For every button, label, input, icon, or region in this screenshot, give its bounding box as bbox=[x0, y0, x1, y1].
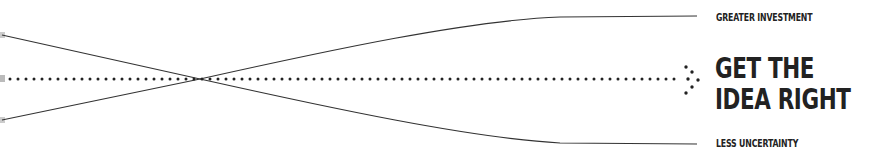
left-edge-fade bbox=[0, 32, 5, 123]
headline-line-2: IDEA RIGHT bbox=[715, 84, 851, 115]
less-uncertainty-label: LESS UNCERTAINTY bbox=[716, 138, 798, 149]
greater-investment-label: GREATER INVESTMENT bbox=[716, 12, 812, 23]
headline-line-1: GET THE bbox=[715, 53, 851, 84]
uncertainty-curve bbox=[2, 35, 697, 144]
investment-curve bbox=[2, 16, 697, 120]
headline: GET THE IDEA RIGHT bbox=[715, 53, 851, 115]
arrow-head-icon bbox=[684, 65, 699, 94]
